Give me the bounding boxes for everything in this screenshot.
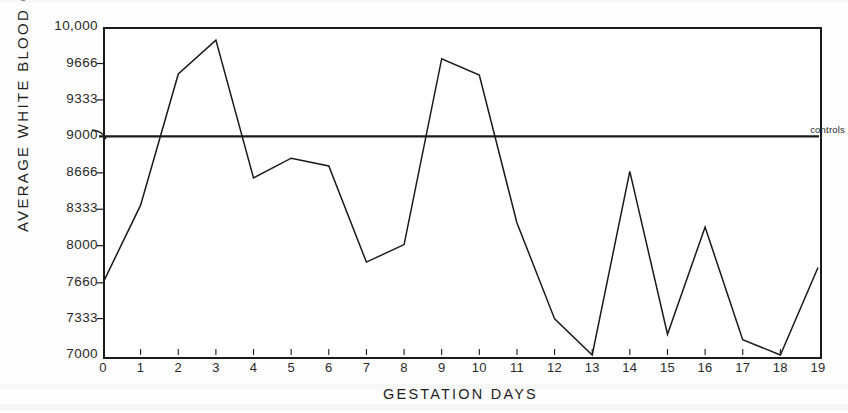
x-axis-tick-label: 6	[325, 360, 333, 375]
x-axis-tick-label: 14	[622, 360, 637, 375]
x-axis-tick-label: 8	[400, 360, 408, 375]
x-axis-tick-label: 10	[472, 360, 487, 375]
chart-figure: AVERAGE WHITE BLOOD CELL COUNT 700073337…	[0, 0, 848, 413]
x-axis-tick-label: 11	[510, 360, 524, 375]
y-axis-tick-label: 7333	[66, 310, 98, 325]
controls-annotation-label: controls	[810, 124, 845, 135]
y-axis-tick-labels: 70007333766080008333866690009333966610,0…	[0, 0, 98, 413]
y-axis-tick-label: 8666	[66, 164, 98, 179]
x-axis-tick-labels: 012345678910111213141516171819	[0, 360, 848, 380]
y-axis-tick-label: 8000	[66, 237, 98, 252]
x-axis-tick-label: 4	[250, 360, 258, 375]
plot-area	[103, 27, 822, 359]
x-axis-tick-label: 15	[660, 360, 675, 375]
x-axis-tick-label: 7	[363, 360, 371, 375]
x-axis-tick-label: 18	[773, 360, 788, 375]
x-axis-tick-label: 12	[547, 360, 562, 375]
y-axis-tick-label: 9000	[66, 127, 98, 142]
y-axis-tick-label: 8333	[66, 200, 98, 215]
x-axis-tick-label: 17	[735, 360, 750, 375]
scan-artifact-top	[0, 0, 848, 3]
x-axis-tick-label: 1	[137, 360, 145, 375]
y-axis-tick-label: 9333	[66, 91, 98, 106]
y-axis-tick-label: 10,000	[54, 18, 98, 33]
x-axis-tick-label: 0	[99, 360, 107, 375]
x-axis-tick-label: 16	[698, 360, 713, 375]
y-axis-tick-label: 7660	[66, 274, 98, 289]
x-axis-tick-label: 5	[287, 360, 295, 375]
x-axis-tick-label: 9	[438, 360, 446, 375]
y-axis-tick-label: 9666	[66, 55, 98, 70]
x-axis-tick-label: 13	[585, 360, 600, 375]
x-axis-tick-label: 3	[212, 360, 220, 375]
scan-artifact-bottom	[0, 404, 848, 411]
y-axis-tick-label: 7000	[66, 346, 98, 361]
x-axis-tick-label: 19	[810, 360, 825, 375]
x-axis-tick-label: 2	[174, 360, 182, 375]
x-axis-title: GESTATION DAYS	[103, 386, 818, 402]
